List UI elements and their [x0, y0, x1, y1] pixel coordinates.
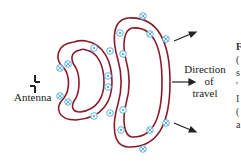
outer-wave-inner-loop: [124, 28, 162, 137]
inner-wave-inner-loop: [72, 49, 104, 112]
direction-of-travel-label: Direction of travel: [178, 64, 232, 99]
direction-line-2: of: [178, 76, 232, 87]
cropped-caption-edge: F ( s ' I ( a: [236, 40, 241, 131]
direction-line-1: Direction: [178, 64, 232, 75]
em-wave-diagram: Antenna Direction of travel F ( s ' I ( …: [0, 0, 241, 163]
into-page-markers: [57, 13, 170, 153]
antenna-label: Antenna: [14, 92, 51, 103]
direction-line-3: travel: [178, 88, 232, 99]
